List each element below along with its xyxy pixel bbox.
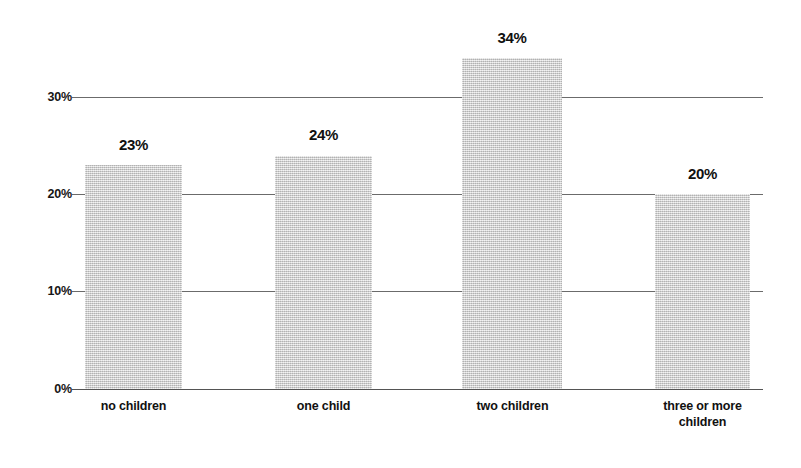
bar-value-no-children: 23% — [85, 136, 182, 153]
y-tick-label-20: 20% — [24, 187, 72, 201]
category-label-line-2: children — [679, 415, 726, 429]
bar-no-children — [85, 165, 182, 389]
bar-three-or-more-children — [655, 194, 750, 389]
y-tick-label-0: 0% — [24, 382, 72, 396]
axis-baseline — [72, 389, 763, 390]
bar-value-two-children: 34% — [462, 29, 562, 46]
gridline-30 — [72, 97, 763, 98]
y-tick-label-30: 30% — [24, 90, 72, 104]
y-tick-label-10: 10% — [24, 284, 72, 298]
category-label-line-1: three or more — [663, 399, 742, 413]
bar-two-children — [462, 58, 562, 389]
category-label-two-children: two children — [442, 399, 583, 415]
bar-value-one-child: 24% — [275, 126, 372, 143]
bar-chart: 30% 20% 10% 0% 23% 24% 34% 20% no childr… — [0, 0, 801, 468]
plot-area: 30% 20% 10% 0% 23% 24% 34% 20% no childr… — [0, 0, 801, 468]
bar-value-three-or-more-children: 20% — [655, 165, 750, 182]
category-label-one-child: one child — [253, 399, 394, 415]
category-label-three-or-more-children: three or more children — [632, 399, 773, 430]
category-label-no-children: no children — [63, 399, 204, 415]
bar-one-child — [275, 156, 372, 389]
